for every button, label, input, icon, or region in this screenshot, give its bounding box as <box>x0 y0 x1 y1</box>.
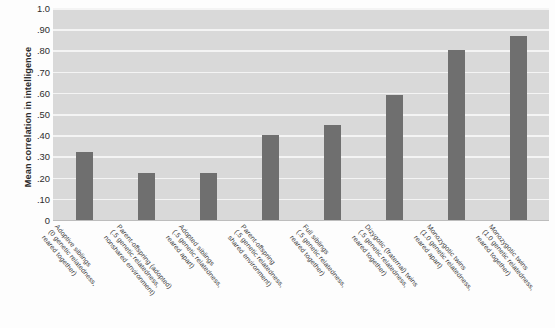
x-axis-tick-label-line: (.5 genetic relatedness, <box>170 228 223 289</box>
x-axis-tick-label: Adoptive siblings(0 genetic relatedness,… <box>40 223 105 294</box>
x-axis-tick-label-line: (1.0 genetic relatedness, <box>480 228 536 292</box>
y-axis-tick-label: .90 <box>22 24 50 35</box>
bar <box>510 36 527 220</box>
x-label-slot: Monozygotic twins(1.0 genetic relatednes… <box>487 221 549 328</box>
bar-slot <box>115 8 177 220</box>
y-axis-tick-label: .70 <box>22 66 50 77</box>
x-axis-tick-label-line: (.5 genetic relatedness, <box>356 228 413 294</box>
bar-chart-figure: Mean correlation in intelligence 1.0.90.… <box>0 0 555 328</box>
x-axis-tick-label-line: (0 genetic relatedness, <box>46 228 98 288</box>
y-axis-tick-label: .40 <box>22 130 50 141</box>
bar-slot <box>425 8 487 220</box>
bar-series <box>53 8 549 220</box>
y-axis-tick-label: 0 <box>22 215 50 226</box>
bar <box>262 135 279 220</box>
bar-slot <box>53 8 115 220</box>
y-axis-tick-label: 1.0 <box>22 3 50 14</box>
y-axis-tick-label: .50 <box>22 109 50 120</box>
bar <box>324 125 341 220</box>
plot-area <box>53 8 549 220</box>
y-axis-tick-labels: 1.0.90.80.70.60.50.40.30.20.100 <box>22 8 50 220</box>
bar-slot <box>487 8 549 220</box>
x-axis-tick-label-line: (.5 genetic relatedness, <box>232 228 285 289</box>
y-axis-tick-label: .20 <box>22 172 50 183</box>
bar-slot <box>301 8 363 220</box>
y-axis-tick-label: .60 <box>22 87 50 98</box>
bar <box>200 173 217 220</box>
bar <box>386 95 403 220</box>
bar <box>448 50 465 220</box>
bar <box>76 152 93 220</box>
y-axis-tick-label: .10 <box>22 193 50 204</box>
x-axis-category-labels: Adoptive siblings(0 genetic relatedness,… <box>53 221 549 328</box>
bar-slot <box>363 8 425 220</box>
bar <box>138 173 155 220</box>
y-axis-tick-label: .80 <box>22 45 50 56</box>
x-axis-tick-label-line: (.5 genetic relatedness, <box>108 228 167 296</box>
bar-slot <box>239 8 301 220</box>
y-axis-tick-label: .30 <box>22 151 50 162</box>
x-axis-tick-label-line: (1.0 genetic relatedness, <box>418 228 474 292</box>
x-axis-tick-label-line: (.5 genetic relatedness, <box>294 228 347 289</box>
bar-slot <box>177 8 239 220</box>
